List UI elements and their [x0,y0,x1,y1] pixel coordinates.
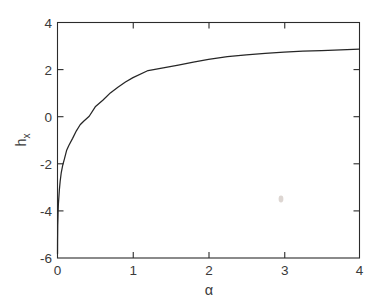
x-tick-label: 3 [281,263,289,278]
y-tick-label: -2 [40,157,52,172]
figure-canvas: 4 2 0 -2 -4 -6 0 1 2 3 4 α hx [0,0,380,305]
y-tick-label: 2 [44,63,52,78]
y-tick-label: -6 [40,251,52,266]
y-axis-title-subscript: x [21,133,32,138]
y-tick-label: 4 [44,16,52,31]
x-tick-label: 1 [129,263,137,278]
scan-artifact-speck [279,196,284,203]
x-tick-label: 2 [205,263,213,278]
y-tick-label: -4 [40,204,52,219]
y-tick-label: 0 [44,110,52,125]
x-tick-label: 0 [54,263,62,278]
plot-area: 4 2 0 -2 -4 -6 0 1 2 3 4 α hx [0,0,380,305]
x-tick-label: 4 [356,263,364,278]
x-axis-title: α [205,282,213,298]
y-axis-title-base: h [13,138,29,146]
